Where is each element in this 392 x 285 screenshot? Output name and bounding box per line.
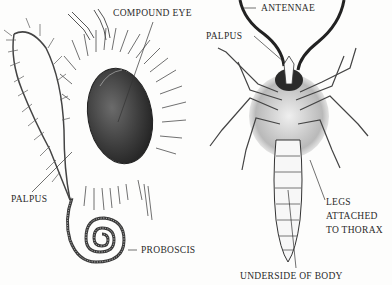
label-legs-line3: TO THORAX [326, 224, 383, 237]
moth-illustration [0, 0, 392, 285]
label-palpus-right: PALPUS [206, 30, 242, 43]
proboscis-drawing [67, 198, 124, 262]
label-legs-line1: LEGS [326, 196, 351, 209]
abdomen [274, 140, 302, 262]
palpus-drawing [13, 32, 70, 200]
label-legs-line2: ATTACHED [326, 210, 378, 223]
palpus-hair [4, 18, 70, 182]
label-proboscis: PROBOSCIS [141, 244, 195, 257]
antenna-stubs [68, 9, 110, 40]
diagram-canvas: COMPOUND EYE PALPUS PROBOSCIS ANTENNAE P… [0, 0, 392, 285]
head-side-view [4, 9, 186, 262]
label-compound-eye: COMPOUND EYE [113, 7, 192, 20]
palpi [284, 56, 294, 84]
label-antennae: ANTENNAE [261, 2, 315, 15]
label-underside: UNDERSIDE OF BODY [240, 270, 343, 283]
label-palpus-left: PALPUS [11, 193, 47, 206]
